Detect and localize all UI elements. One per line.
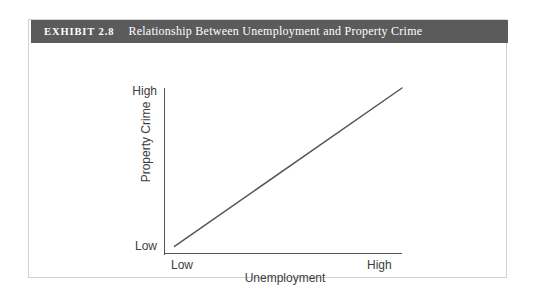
chart-plot-area: High Low Property Crime Low High Unemplo…	[29, 43, 506, 277]
x-axis-high-label: High	[367, 258, 392, 272]
exhibit-title: Relationship Between Unemployment and Pr…	[128, 24, 422, 39]
exhibit-header-bar: EXHIBIT 2.8 Relationship Between Unemplo…	[31, 20, 508, 43]
x-axis-line	[164, 253, 402, 254]
exhibit-number-label: EXHIBIT 2.8	[44, 26, 114, 37]
exhibit-card: EXHIBIT 2.8 Relationship Between Unemplo…	[28, 19, 507, 278]
x-axis-title: Unemployment	[215, 271, 355, 285]
x-axis-low-label: Low	[171, 258, 193, 272]
y-axis-line	[164, 88, 165, 255]
y-axis-title: Property Crime	[139, 87, 153, 197]
y-axis-low-label: Low	[103, 239, 157, 253]
trend-line	[29, 43, 506, 277]
